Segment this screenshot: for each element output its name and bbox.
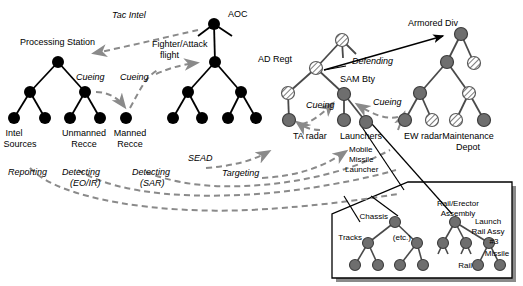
- node-aoc-leaf-1[interactable]: [167, 112, 179, 124]
- label-cueing-4: Cueing: [373, 97, 402, 107]
- label-mobile-missile-launcher-line3: Launcher: [345, 165, 379, 174]
- relation-cueing-2b: [156, 63, 196, 74]
- node-missile[interactable]: [495, 260, 506, 271]
- label-tac-intel: Tac Intel: [112, 10, 147, 20]
- label-launchers: Launchers: [340, 131, 383, 141]
- node-inset-leaf-4[interactable]: [418, 260, 429, 271]
- label-manned-recce-line2: Recce: [117, 139, 143, 149]
- node-aoc-right[interactable]: [235, 86, 247, 98]
- diagram-canvas: Processing Station Tac Intel AOC Fighter…: [0, 0, 523, 286]
- label-rail-erector-assembly-line1: Rail/Erector: [437, 199, 479, 208]
- label-rail: Rail: [458, 261, 472, 270]
- node-intel-sources-b[interactable]: [39, 112, 51, 124]
- relation-sead: [206, 152, 268, 168]
- node-arm-left[interactable]: [441, 56, 454, 69]
- label-manned-recce-line1: Manned: [114, 128, 147, 138]
- node-aoc-leaf-4[interactable]: [250, 112, 262, 124]
- label-detecting-eoir-line1: Detecting: [62, 167, 100, 177]
- label-cueing-2: Cueing: [120, 72, 149, 82]
- node-maintenance-depot-a[interactable]: [450, 114, 463, 127]
- label-missile: Missile: [485, 249, 510, 258]
- label-targeting: Targeting: [222, 168, 259, 178]
- label-ew-radar: EW radar: [404, 131, 442, 141]
- label-ta-radar: TA radar: [293, 131, 327, 141]
- node-launchers-a[interactable]: [338, 114, 351, 127]
- label-fighter-attack-flight-line1: Fighter/Attack: [152, 39, 208, 49]
- label-mobile-missile-launcher-line2: Missile: [349, 155, 374, 164]
- node-unmanned-recce-a[interactable]: [64, 112, 76, 124]
- label-armored-div: Armored Div: [408, 18, 459, 28]
- node-launchers-b[interactable]: [360, 116, 373, 129]
- label-detecting-sar-line2: (SAR): [140, 178, 165, 188]
- node-manned-recce[interactable]: [120, 112, 132, 124]
- tree-processing-station: [8, 56, 132, 124]
- node-inset-leaf-1[interactable]: [350, 260, 361, 271]
- node-rail-erector-assembly[interactable]: [450, 217, 461, 228]
- label-etc: (etc.): [393, 233, 412, 242]
- node-etc[interactable]: [412, 238, 423, 249]
- label-chassis: Chassis: [360, 212, 388, 221]
- label-intel-sources-line2: Sources: [3, 139, 37, 149]
- node-ad-left[interactable]: [282, 87, 295, 100]
- node-ps-right[interactable]: [79, 86, 91, 98]
- node-chassis[interactable]: [390, 217, 401, 228]
- label-unmanned-recce-line1: Unmanned: [62, 128, 106, 138]
- node-fighter-attack-flight[interactable]: [209, 56, 221, 68]
- label-detecting-sar-line1: Detecting: [132, 167, 170, 177]
- node-ew-radar[interactable]: [399, 114, 412, 127]
- label-launch-rail-assy-line3: #3: [490, 237, 499, 246]
- label-launch-rail-assy-line1: Launch: [475, 217, 501, 226]
- label-intel-sources-line1: Intel: [5, 128, 22, 138]
- label-tracks: Tracks: [338, 233, 362, 242]
- label-processing-station: Processing Station: [20, 37, 95, 47]
- node-aoc-leaf-2[interactable]: [196, 112, 208, 124]
- label-mobile-missile-launcher-line1: Mobile: [349, 145, 373, 154]
- node-tracks[interactable]: [363, 238, 374, 249]
- node-arm-right[interactable]: [468, 57, 481, 70]
- label-maintenance-depot-line2: Depot: [456, 142, 481, 152]
- tree-aoc: [167, 18, 262, 124]
- label-aoc: AOC: [228, 9, 248, 19]
- relation-cueing-1: [96, 92, 124, 106]
- relation-targeting: [262, 152, 345, 178]
- diagram-root: Processing Station Tac Intel AOC Fighter…: [0, 0, 523, 286]
- node-inset-3[interactable]: [438, 238, 449, 249]
- node-arm-leaf-2[interactable]: [426, 114, 439, 127]
- node-ps-left[interactable]: [24, 86, 36, 98]
- node-ad-regt[interactable]: [310, 62, 323, 75]
- node-unmanned-recce-b[interactable]: [94, 112, 106, 124]
- node-ew-radar-parent[interactable]: [414, 87, 427, 100]
- node-intel-sources-a[interactable]: [8, 112, 20, 124]
- node-inset-leaf-2[interactable]: [373, 260, 384, 271]
- label-sam-bty: SAM Bty: [340, 74, 376, 84]
- relation-cueing-3b: [298, 123, 320, 130]
- node-sam-bty[interactable]: [338, 88, 351, 101]
- node-rail[interactable]: [473, 260, 484, 271]
- label-detecting-eoir-line2: (EO/IR): [70, 178, 101, 188]
- node-aoc-left[interactable]: [182, 86, 194, 98]
- label-reporting: Reporting: [8, 167, 47, 177]
- node-ta-radar[interactable]: [283, 114, 296, 127]
- node-aoc-leaf-3[interactable]: [222, 112, 234, 124]
- arm-edges: [405, 34, 484, 120]
- label-unmanned-recce-line2: Recce: [71, 139, 97, 149]
- label-ad-regt: AD Regt: [258, 54, 293, 64]
- node-maintenance-parent[interactable]: [463, 87, 476, 100]
- label-maintenance-depot-line1: Maintenance: [442, 131, 494, 141]
- label-cueing-3: Cueing: [306, 100, 335, 110]
- label-fighter-attack-flight-line2: flight: [160, 50, 180, 60]
- node-aoc-root[interactable]: [208, 18, 220, 30]
- node-inset-leaf-3[interactable]: [395, 260, 406, 271]
- tree-armored-div: [399, 28, 491, 127]
- node-inset-4[interactable]: [461, 238, 472, 249]
- node-maintenance-depot-b[interactable]: [478, 114, 491, 127]
- label-defending: Defending: [352, 56, 393, 66]
- node-armored-div-root[interactable]: [455, 28, 468, 41]
- node-ad-top[interactable]: [336, 34, 349, 47]
- node-processing-station-root[interactable]: [52, 56, 64, 68]
- label-launch-rail-assy-line2: Rail Assy: [472, 227, 505, 236]
- label-rail-erector-assembly-line2: Assembly: [441, 209, 476, 218]
- label-cueing-1: Cueing: [76, 72, 105, 82]
- label-sead: SEAD: [188, 153, 213, 163]
